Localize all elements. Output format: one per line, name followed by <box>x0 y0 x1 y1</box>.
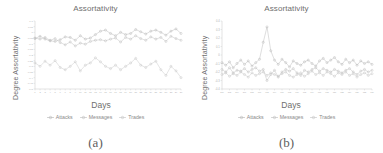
legend-marker-icon <box>271 115 278 120</box>
svg-text:298: 298 <box>250 91 254 93</box>
chart-panel-a: Assortativity Degree Assortativity 0.10.… <box>0 0 191 153</box>
svg-text:316: 316 <box>318 91 322 93</box>
svg-text:304: 304 <box>273 91 277 93</box>
svg-text:22: 22 <box>139 91 142 93</box>
svg-text:-0.1: -0.1 <box>28 43 33 46</box>
svg-text:0.4: 0.4 <box>216 19 220 23</box>
plot-area-b: 0.40.30.20.10-0.1-0.2-0.3-0.429029229429… <box>207 18 375 100</box>
svg-text:15: 15 <box>104 91 107 93</box>
svg-text:3: 3 <box>44 91 46 93</box>
legend-label: Messages <box>280 114 304 120</box>
svg-text:4: 4 <box>49 91 51 93</box>
svg-text:-0.2: -0.2 <box>28 54 33 57</box>
svg-text:28: 28 <box>170 91 173 93</box>
legend-label: Trades <box>128 114 144 120</box>
x-axis-label: Days <box>207 100 375 110</box>
svg-text:290: 290 <box>220 91 224 93</box>
svg-text:330: 330 <box>370 91 374 93</box>
svg-text:13: 13 <box>94 91 97 93</box>
svg-text:18: 18 <box>119 91 122 93</box>
legend-label: Messages <box>89 114 113 120</box>
legend-item-messages[interactable]: Messages <box>271 114 304 120</box>
svg-text:312: 312 <box>303 91 307 93</box>
chart-panel-b: Assortativity Degree Assortativity 0.40.… <box>191 0 382 153</box>
legend-item-attacks[interactable]: Attacks <box>238 114 264 120</box>
svg-text:0.1: 0.1 <box>216 45 220 49</box>
chart-title: Assortativity <box>191 4 382 13</box>
legend-b: Attacks Messages Trades <box>191 114 382 120</box>
svg-text:19: 19 <box>124 91 127 93</box>
svg-text:-0.05: -0.05 <box>27 37 33 40</box>
legend-item-attacks[interactable]: Attacks <box>47 114 73 120</box>
svg-text:294: 294 <box>235 91 239 93</box>
svg-text:-0.45: -0.45 <box>27 82 33 85</box>
svg-text:6: 6 <box>60 91 62 93</box>
svg-text:324: 324 <box>348 91 352 93</box>
svg-text:322: 322 <box>340 91 344 93</box>
svg-text:296: 296 <box>243 91 247 93</box>
x-axis-label: Days <box>18 100 184 110</box>
legend-marker-icon <box>80 115 87 120</box>
svg-text:-0.5: -0.5 <box>28 88 33 91</box>
svg-text:-0.3: -0.3 <box>215 79 220 83</box>
svg-text:-0.15: -0.15 <box>27 48 33 51</box>
svg-text:0.05: 0.05 <box>28 26 33 29</box>
svg-text:27: 27 <box>165 91 168 93</box>
svg-text:12: 12 <box>89 91 92 93</box>
svg-text:320: 320 <box>333 91 337 93</box>
svg-text:29: 29 <box>175 91 178 93</box>
legend-item-trades[interactable]: Trades <box>119 114 144 120</box>
svg-text:308: 308 <box>288 91 292 93</box>
legend-marker-icon <box>310 115 317 120</box>
svg-text:21: 21 <box>134 91 137 93</box>
legend-label: Attacks <box>247 114 264 120</box>
svg-text:7: 7 <box>65 91 67 93</box>
svg-text:326: 326 <box>355 91 359 93</box>
svg-text:-0.2: -0.2 <box>215 70 220 74</box>
panel-caption-b: (b) <box>191 135 382 151</box>
svg-text:314: 314 <box>310 91 314 93</box>
legend-marker-icon <box>119 115 126 120</box>
legend-marker-icon <box>238 115 245 120</box>
plot-area-a: 0.10.050-0.05-0.1-0.15-0.2-0.25-0.3-0.35… <box>18 18 184 100</box>
chart-title: Assortativity <box>0 4 191 13</box>
legend-item-messages[interactable]: Messages <box>80 114 113 120</box>
plot-svg-b: 0.40.30.20.10-0.1-0.2-0.3-0.429029229429… <box>207 18 375 100</box>
svg-text:14: 14 <box>99 91 102 93</box>
svg-text:-0.1: -0.1 <box>215 62 220 66</box>
svg-text:0.3: 0.3 <box>216 28 220 32</box>
svg-text:0.1: 0.1 <box>29 20 33 23</box>
svg-text:-0.3: -0.3 <box>28 65 33 68</box>
svg-text:310: 310 <box>295 91 299 93</box>
svg-text:8: 8 <box>70 91 72 93</box>
svg-text:-0.25: -0.25 <box>27 60 33 63</box>
svg-text:23: 23 <box>144 91 147 93</box>
svg-text:2: 2 <box>39 91 41 93</box>
svg-text:9: 9 <box>75 91 77 93</box>
svg-text:16: 16 <box>109 91 112 93</box>
plot-svg-a: 0.10.050-0.05-0.1-0.15-0.2-0.25-0.3-0.35… <box>18 18 184 100</box>
svg-text:0.2: 0.2 <box>216 36 220 40</box>
svg-text:1: 1 <box>34 91 36 93</box>
svg-text:11: 11 <box>84 91 87 93</box>
svg-text:302: 302 <box>265 91 269 93</box>
figure-container: Assortativity Degree Assortativity 0.10.… <box>0 0 383 153</box>
svg-text:24: 24 <box>150 91 153 93</box>
svg-text:328: 328 <box>363 91 367 93</box>
svg-text:20: 20 <box>129 91 132 93</box>
svg-text:306: 306 <box>280 91 284 93</box>
svg-text:30: 30 <box>180 91 183 93</box>
legend-marker-icon <box>47 115 54 120</box>
svg-text:17: 17 <box>114 91 117 93</box>
legend-item-trades[interactable]: Trades <box>310 114 335 120</box>
svg-text:318: 318 <box>325 91 329 93</box>
svg-text:26: 26 <box>160 91 163 93</box>
legend-a: Attacks Messages Trades <box>0 114 191 120</box>
svg-text:300: 300 <box>258 91 262 93</box>
svg-text:5: 5 <box>54 91 56 93</box>
svg-text:292: 292 <box>228 91 232 93</box>
svg-text:10: 10 <box>79 91 82 93</box>
legend-label: Trades <box>319 114 335 120</box>
svg-text:-0.35: -0.35 <box>27 71 33 74</box>
panel-caption-a: (a) <box>0 135 191 151</box>
